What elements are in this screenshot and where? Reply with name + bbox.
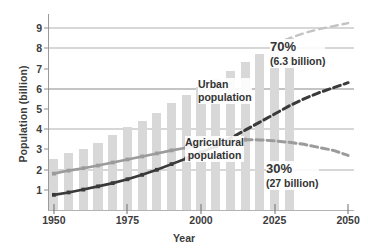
y-tick-label: 2 [36, 164, 42, 175]
data-point-marker [96, 164, 100, 168]
data-point-marker [52, 193, 56, 197]
x-tick-mark [127, 204, 128, 214]
plot-area: 123456789 19501975200020252050 Urban pop… [48, 16, 354, 210]
y-tick-label: 5 [36, 104, 42, 115]
annotation-urban-population: Urban population [198, 78, 252, 104]
data-point-marker [140, 155, 144, 159]
data-point-marker [126, 158, 130, 162]
data-point-marker [126, 177, 130, 181]
x-tick-mark [348, 204, 349, 214]
annotation-agricultural-share: 30% (27 billion) [266, 161, 319, 190]
data-point-marker [170, 162, 174, 166]
agricultural-share-absolute: (27 billion) [266, 177, 319, 190]
y-tick-label: 7 [36, 63, 42, 74]
x-tick-mark [201, 204, 202, 214]
data-point-marker [52, 172, 56, 176]
x-tick-label: 2025 [263, 214, 286, 226]
agricultural-label-line2: population [185, 149, 244, 162]
y-tick-label: 3 [36, 144, 42, 155]
x-tick-label: 1975 [116, 214, 139, 226]
agricultural-label-line1: Agricultural [185, 136, 244, 148]
data-point-marker [155, 168, 159, 172]
x-tick-mark [274, 204, 275, 214]
line-agricultural-population-projected [245, 140, 348, 156]
data-point-marker [140, 173, 144, 177]
x-tick-mark [53, 204, 54, 214]
data-point-marker [67, 191, 71, 195]
agricultural-share-value: 30% [266, 161, 292, 176]
data-point-marker [170, 148, 174, 152]
data-point-marker [111, 181, 115, 185]
data-point-marker [81, 166, 85, 170]
data-point-marker [111, 161, 115, 165]
urban-share-value: 70% [270, 39, 296, 54]
urban-label-line1: Urban [198, 78, 228, 90]
urban-share-absolute: (6.3 billion) [270, 55, 325, 68]
data-point-marker [67, 169, 71, 173]
y-tick-label: 1 [36, 185, 42, 196]
x-tick-label: 1950 [42, 214, 65, 226]
y-tick-label: 9 [36, 23, 42, 34]
data-point-marker [81, 188, 85, 192]
annotation-urban-share: 70% (6.3 billion) [270, 39, 325, 68]
x-tick-label: 2050 [336, 214, 359, 226]
data-point-marker [96, 184, 100, 188]
annotation-agricultural-population: Agricultural population [185, 136, 244, 162]
y-tick-label: 8 [36, 43, 42, 54]
x-axis-title: Year [0, 232, 368, 244]
urban-label-line2: population [198, 91, 252, 104]
y-axis-title: Population (billion) [17, 39, 29, 189]
data-point-marker [155, 152, 159, 156]
y-tick-label: 4 [36, 124, 42, 135]
x-tick-label: 2000 [189, 214, 212, 226]
population-chart: Population (billion) 123456789 195019752… [0, 0, 368, 252]
y-tick-label: 6 [36, 84, 42, 95]
